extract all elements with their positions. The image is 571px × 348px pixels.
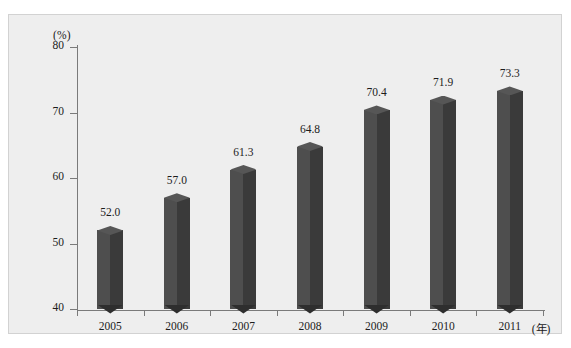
y-axis-tick-label: 40 [53,301,65,313]
y-axis-tick-mark [70,47,77,48]
bar-side-face [430,100,443,309]
x-axis-tick-mark [77,310,78,316]
bar-bottom-face [164,305,190,314]
y-axis-tick-mark [70,113,77,114]
bar-value-label: 64.8 [300,123,320,135]
plot-area: 52.057.061.364.870.471.973.3 [77,47,543,309]
bar-column[interactable]: 52.0 [97,230,123,309]
y-axis-tick-mark [70,178,77,179]
y-axis-tick-mark [70,309,77,310]
x-axis-category-label: 2008 [299,320,322,332]
bar-side-face [230,170,243,310]
bar-front-face [377,110,390,309]
bar-bottom-face [497,305,523,314]
bar-bottom-face [230,305,256,314]
bar-side-face [497,91,510,309]
bar-column[interactable]: 70.4 [364,110,390,309]
bar-side-face [164,198,177,309]
bar-value-label: 73.3 [500,67,520,79]
bar-chart-figure: (%) 8070605040 2005200620072008200920102… [8,14,562,334]
bar-bottom-face [430,305,456,314]
bar-front-face [510,91,523,309]
bar-column[interactable]: 73.3 [497,91,523,309]
bar-value-label: 57.0 [167,174,187,186]
bar-front-face [110,230,123,309]
x-axis-tick-mark [343,310,344,316]
bar-front-face [177,198,190,309]
x-axis-category-label: 2009 [365,320,388,332]
y-axis-tick-mark [70,244,77,245]
bar-column[interactable]: 57.0 [164,198,190,309]
y-axis-tick-label: 60 [53,170,65,182]
x-axis-tick-mark [210,310,211,316]
x-axis-tick-mark [476,310,477,316]
bar-value-label: 61.3 [233,146,253,158]
bar-value-label: 52.0 [100,206,120,218]
x-axis-tick-mark [543,310,544,316]
y-axis-tick-label: 80 [53,39,65,51]
y-axis-tick-label: 70 [53,105,65,117]
bar-side-face [97,230,110,309]
x-axis-tick-mark [277,310,278,316]
x-axis-category-label: 2010 [432,320,455,332]
bar-bottom-face [97,305,123,314]
bar-column[interactable]: 71.9 [430,100,456,309]
x-axis-category-label: 2011 [498,320,521,332]
bar-column[interactable]: 61.3 [230,170,256,310]
x-axis-unit-label: (年) [532,320,551,336]
x-axis-tick-mark [144,310,145,316]
x-axis-category-label: 2007 [232,320,255,332]
y-axis-tick-label: 50 [53,236,65,248]
bar-bottom-face [297,305,323,314]
bar-column[interactable]: 64.8 [297,147,323,309]
x-axis-category-label: 2005 [99,320,122,332]
bar-front-face [243,170,256,310]
bar-side-face [297,147,310,309]
x-axis-tick-mark [410,310,411,316]
bar-bottom-face [364,305,390,314]
bar-front-face [310,147,323,309]
bar-front-face [443,100,456,309]
bar-side-face [364,110,377,309]
bar-value-label: 70.4 [367,86,387,98]
x-axis-category-label: 2006 [165,320,188,332]
bar-value-label: 71.9 [433,76,453,88]
